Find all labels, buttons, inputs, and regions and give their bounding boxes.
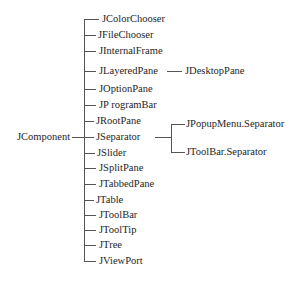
branch-line bbox=[171, 124, 185, 125]
node-joptionpane: JOptionPane bbox=[99, 83, 153, 95]
node-jtoolbar-separator: JToolBar.Separator bbox=[186, 146, 267, 158]
trunk-line bbox=[84, 19, 85, 261]
node-jviewport: JViewPort bbox=[99, 255, 143, 267]
branch-line bbox=[171, 152, 185, 153]
node-jdesktoppane: JDesktopPane bbox=[185, 65, 245, 77]
node-jrootpane: JRootPane bbox=[96, 115, 141, 127]
branch-line bbox=[84, 89, 96, 90]
separator-subtrunk bbox=[171, 124, 172, 153]
node-jseparator: JSeparator bbox=[96, 131, 140, 143]
node-jtoolbar: JToolBar bbox=[99, 209, 137, 221]
node-jsplitpane: JSplitPane bbox=[99, 162, 143, 174]
node-jtable: JTable bbox=[96, 194, 123, 206]
node-jinternalframe: JInternalFrame bbox=[99, 45, 163, 57]
node-jlayeredpane: JLayeredPane bbox=[99, 65, 158, 77]
node-jcomponent: JComponent bbox=[17, 131, 70, 143]
branch-line bbox=[84, 168, 96, 169]
branch-line bbox=[84, 230, 96, 231]
branch-line bbox=[84, 71, 96, 72]
branch-line bbox=[84, 19, 99, 20]
branch-line bbox=[84, 245, 96, 246]
branch-line bbox=[84, 105, 96, 106]
branch-line bbox=[84, 121, 94, 122]
branch-line bbox=[84, 35, 96, 36]
branch-line bbox=[84, 261, 96, 262]
node-jfilechooser: JFileChooser bbox=[98, 29, 153, 41]
branch-line bbox=[84, 153, 95, 154]
node-jslider: JSlider bbox=[97, 147, 126, 159]
node-jtabbedpane: JTabbedPane bbox=[99, 178, 154, 190]
branch-line bbox=[84, 200, 94, 201]
branch-line bbox=[84, 137, 94, 138]
node-jprogrambar: JP rogramBar bbox=[99, 99, 157, 111]
node-jcolorchooser: JColorChooser bbox=[102, 13, 165, 25]
branch-line bbox=[84, 215, 96, 216]
branch-line-jdesktoppane bbox=[167, 71, 182, 72]
branch-line bbox=[84, 51, 96, 52]
node-jtree: JTree bbox=[99, 239, 122, 251]
node-jtooltip: JToolTip bbox=[99, 224, 136, 236]
node-jpopupmenu-separator: JPopupMenu.Separator bbox=[186, 118, 284, 130]
branch-line-separator bbox=[155, 137, 171, 138]
branch-line bbox=[84, 184, 96, 185]
